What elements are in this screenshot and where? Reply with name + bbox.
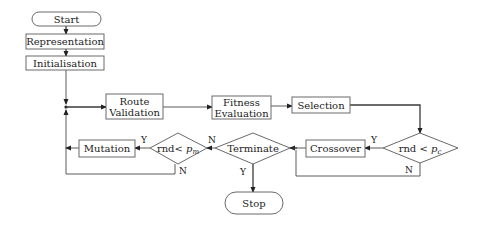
- mutation-yes-label: Y: [140, 135, 148, 145]
- route-validation-line2: Validation: [108, 107, 160, 118]
- mutation-node: Mutation: [79, 140, 135, 157]
- mutation-label: Mutation: [84, 143, 131, 154]
- terminate-node: Terminate N Y: [208, 133, 290, 177]
- flowchart-canvas: Start Representation Initialisation Rout…: [0, 0, 482, 236]
- crossover-decision-node: rnd < pc Y N: [370, 133, 458, 175]
- selection-label: Selection: [297, 100, 345, 111]
- crossover-yes-label: Y: [370, 135, 378, 145]
- route-validation-line1: Route: [120, 96, 150, 107]
- fitness-evaluation-node: Fitness Evaluation: [212, 96, 271, 119]
- fitness-evaluation-line1: Fitness: [223, 97, 260, 108]
- route-validation-node: Route Validation: [106, 94, 163, 119]
- selection-node: Selection: [292, 97, 350, 113]
- start-label: Start: [54, 14, 80, 25]
- stop-label: Stop: [242, 198, 265, 209]
- initialisation-label: Initialisation: [33, 58, 97, 69]
- edge-selection-crossover-decision: [350, 105, 420, 133]
- crossover-label: Crossover: [310, 143, 361, 154]
- mutation-no-label: N: [179, 166, 187, 176]
- crossover-node: Crossover: [306, 140, 365, 157]
- representation-label: Representation: [26, 36, 104, 47]
- representation-node: Representation: [26, 34, 104, 49]
- terminate-yes-label: Y: [239, 167, 247, 177]
- crossover-no-label: N: [405, 165, 413, 175]
- initialisation-node: Initialisation: [26, 56, 104, 70]
- terminate-label: Terminate: [227, 143, 279, 154]
- start-node: Start: [32, 12, 101, 26]
- terminate-no-label: N: [208, 135, 216, 145]
- fitness-evaluation-line2: Evaluation: [214, 108, 269, 119]
- mutation-decision-node: rnd< pm Y N: [140, 133, 207, 176]
- stop-node: Stop: [225, 192, 283, 214]
